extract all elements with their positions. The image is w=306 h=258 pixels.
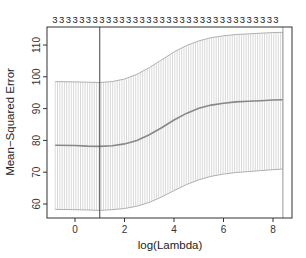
cv-error-chart: 3333333333333333333333333333333333 60708… — [0, 0, 306, 258]
top-count-label: 3 — [52, 14, 57, 25]
top-count-label: 3 — [113, 14, 118, 25]
error-bars — [55, 32, 283, 210]
top-count-label: 3 — [66, 14, 71, 25]
top-count-label: 3 — [267, 14, 272, 25]
top-count-label: 3 — [220, 14, 225, 25]
top-count-label: 3 — [126, 14, 131, 25]
top-count-label: 3 — [247, 14, 252, 25]
y-tick-label: 80 — [31, 134, 42, 146]
top-count-label: 3 — [193, 14, 198, 25]
top-count-label: 3 — [106, 14, 111, 25]
top-count-label: 3 — [86, 14, 91, 25]
top-count-label: 3 — [180, 14, 185, 25]
y-axis-title: Mean−Squared Error — [4, 68, 16, 176]
x-tick-label: 0 — [72, 224, 78, 235]
x-axis: 02468 — [72, 218, 276, 235]
y-tick-label: 90 — [31, 103, 42, 115]
top-count-label: 3 — [59, 14, 64, 25]
top-count-label: 3 — [213, 14, 218, 25]
top-count-label: 3 — [153, 14, 158, 25]
top-count-label: 3 — [233, 14, 238, 25]
top-count-label: 3 — [139, 14, 144, 25]
top-count-label: 3 — [79, 14, 84, 25]
top-count-label: 3 — [206, 14, 211, 25]
y-tick-label: 60 — [31, 198, 42, 210]
top-count-label: 3 — [226, 14, 231, 25]
y-tick-label: 110 — [31, 37, 42, 53]
top-count-label: 3 — [273, 14, 278, 25]
top-count-label: 3 — [133, 14, 138, 25]
y-tick-label: 100 — [31, 68, 42, 85]
y-axis: 60708090100110 — [31, 37, 47, 210]
top-count-label: 3 — [200, 14, 205, 25]
x-tick-label: 2 — [122, 224, 128, 235]
x-tick-label: 8 — [270, 224, 276, 235]
x-tick-label: 4 — [171, 224, 177, 235]
top-count-label: 3 — [160, 14, 165, 25]
top-count-label: 3 — [146, 14, 151, 25]
x-axis-title: log(Lambda) — [138, 239, 203, 251]
top-count-label: 3 — [260, 14, 265, 25]
top-count-label: 3 — [93, 14, 98, 25]
top-count-label: 3 — [240, 14, 245, 25]
top-count-label: 3 — [166, 14, 171, 25]
top-count-label: 3 — [119, 14, 124, 25]
top-axis-labels: 3333333333333333333333333333333333 — [52, 14, 278, 25]
top-count-label: 3 — [173, 14, 178, 25]
y-tick-label: 70 — [31, 166, 42, 178]
top-count-label: 3 — [72, 14, 77, 25]
top-count-label: 3 — [186, 14, 191, 25]
top-count-label: 3 — [253, 14, 258, 25]
x-tick-label: 6 — [221, 224, 227, 235]
top-count-label: 3 — [99, 14, 104, 25]
